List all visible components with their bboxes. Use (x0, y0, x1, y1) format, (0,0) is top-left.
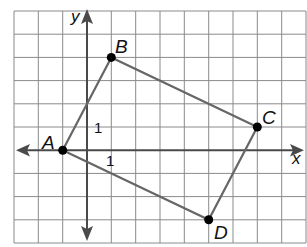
point-a (58, 146, 67, 155)
point-c-label: C (262, 108, 276, 127)
x-unit-label: 1 (106, 153, 114, 168)
graph-canvas (0, 0, 307, 247)
point-c (253, 123, 262, 132)
x-axis-label: x (292, 150, 301, 167)
point-d (204, 215, 213, 224)
y-unit-label: 1 (94, 120, 102, 135)
point-a-label: A (42, 133, 55, 152)
point-d-label: D (214, 223, 228, 242)
coordinate-plane-diagram: y x 1 1 A B C D (0, 0, 307, 247)
y-axis-label: y (71, 8, 80, 25)
point-b-label: B (115, 37, 128, 56)
